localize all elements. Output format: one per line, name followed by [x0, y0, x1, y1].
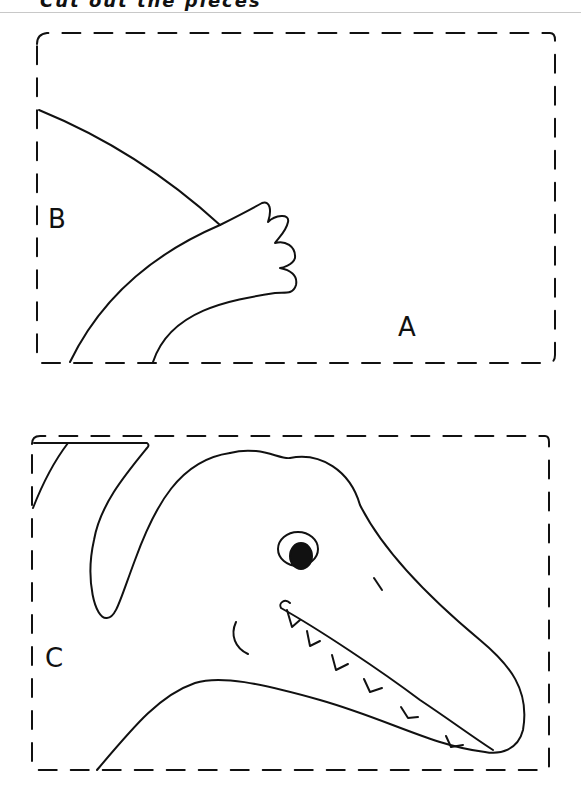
tooth-5: [401, 707, 418, 718]
label-b: B: [48, 204, 66, 234]
label-a: A: [398, 312, 416, 342]
dino-pupil: [290, 543, 312, 569]
tooth-4: [364, 679, 382, 692]
label-c: C: [45, 643, 63, 673]
tail-flap: [34, 443, 230, 618]
dino-head: [97, 451, 524, 770]
flap-inner-line: [33, 443, 68, 508]
cutout-diagram: [0, 0, 581, 796]
dino-cheek: [233, 622, 248, 654]
dino-arm: [70, 202, 296, 362]
tooth-2: [307, 631, 320, 646]
tooth-3: [332, 655, 348, 670]
cut-line-top-panel: [37, 33, 555, 363]
dino-back-line: [39, 110, 220, 225]
dino-nostril: [374, 578, 382, 590]
